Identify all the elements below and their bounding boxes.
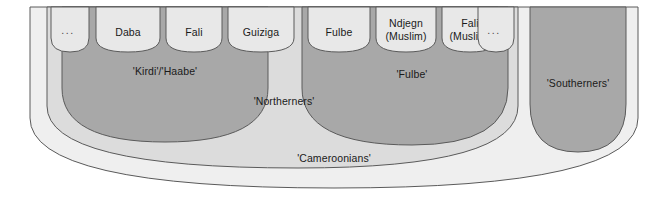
cell-group-fulbe: Fulbe Ndjegn (Muslim) Fali (Muslim) ... (308, 7, 514, 52)
identity-nesting-diagram: ... Daba Fali Guiziga Fulbe Ndjegn (Musl… (0, 0, 668, 197)
label-fulbe: 'Fulbe' (397, 68, 428, 80)
cell-label-ndjegn-line1: Ndjegn (389, 17, 423, 29)
label-northerners: 'Northerners' (254, 95, 315, 107)
cell-label-fali: Fali (185, 26, 202, 38)
cell-label-fulbe: Fulbe (326, 26, 353, 38)
cell-group-kirdi-haabe: ... Daba Fali Guiziga (51, 7, 294, 52)
cell-label-ndjegn-line2: (Muslim) (385, 30, 426, 42)
label-cameroonians: 'Cameroonians' (297, 152, 371, 164)
cell-label-fulbe-ellipsis: ... (487, 24, 501, 36)
label-kirdi-haabe: 'Kirdi'/'Haabe' (133, 65, 197, 77)
cell-label-kirdi-ellipsis: ... (61, 24, 75, 36)
diagram-root: ... Daba Fali Guiziga Fulbe Ndjegn (Musl… (0, 0, 668, 197)
cell-label-guiziga: Guiziga (243, 26, 279, 38)
cell-label-fali-muslim-line1: Fali (461, 17, 478, 29)
cell-label-daba: Daba (115, 26, 141, 38)
label-southerners: 'Southerners' (547, 77, 610, 89)
